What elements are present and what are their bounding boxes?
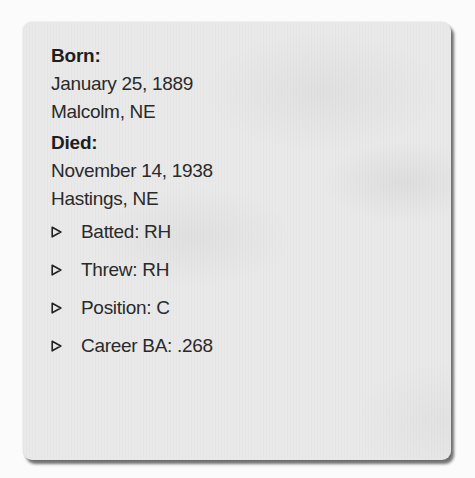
died-label: Died: (51, 129, 213, 157)
stat-threw: Threw: RH (51, 256, 213, 284)
stat-text: Threw: RH (81, 259, 169, 281)
card-content: Born: January 25, 1889 Malcolm, NE Died:… (51, 42, 213, 370)
born-place: Malcolm, NE (51, 98, 213, 126)
stat-text: Batted: RH (81, 221, 171, 243)
triangle-right-icon (51, 226, 62, 238)
triangle-right-icon (51, 302, 62, 314)
stats-list: Batted: RH Threw: RH Position: C Career … (51, 218, 213, 360)
born-date: January 25, 1889 (51, 70, 213, 98)
stat-position: Position: C (51, 294, 213, 322)
triangle-right-icon (51, 264, 62, 276)
stat-batted: Batted: RH (51, 218, 213, 246)
triangle-right-icon (51, 340, 62, 352)
player-info-card: Born: January 25, 1889 Malcolm, NE Died:… (23, 22, 451, 460)
died-place: Hastings, NE (51, 185, 213, 213)
born-label: Born: (51, 42, 213, 70)
died-date: November 14, 1938 (51, 157, 213, 185)
stat-text: Position: C (81, 297, 170, 319)
stat-career-ba: Career BA: .268 (51, 332, 213, 360)
stat-text: Career BA: .268 (81, 335, 213, 357)
